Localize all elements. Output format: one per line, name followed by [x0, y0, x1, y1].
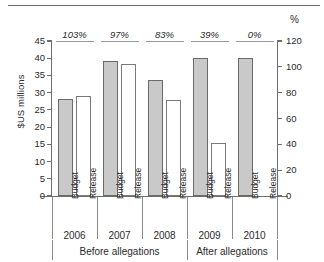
group-separator — [187, 197, 188, 239]
band-separator — [187, 240, 188, 260]
right-tick-mark — [278, 92, 282, 93]
year-label-2008: 2008 — [142, 230, 187, 241]
left-tick-label: 20 — [25, 122, 45, 132]
left-tick-label: 35 — [25, 70, 45, 80]
bar-label-release-2010: Release — [268, 168, 278, 199]
bar-label-release-2009: Release — [223, 168, 233, 199]
left-tick-mark — [47, 178, 51, 179]
left-tick-mark — [47, 195, 51, 196]
bar-label-release-2008: Release — [178, 168, 188, 199]
left-tick-mark — [47, 92, 51, 93]
group-separator — [52, 197, 53, 239]
group-separator — [232, 197, 233, 239]
bar-label-release-2007: Release — [133, 168, 143, 199]
group-label-before: Before allegations — [44, 246, 195, 257]
percent-annotation-2010: 0% — [233, 29, 277, 40]
year-label-2006: 2006 — [52, 230, 97, 241]
group-separator — [97, 197, 98, 239]
left-tick-label: 10 — [25, 157, 45, 167]
left-axis-title: $US millions — [15, 42, 26, 162]
bar-label-release-2006: Release — [88, 168, 98, 199]
percent-annotation-2007: 97% — [98, 29, 142, 40]
right-tick-label: 80 — [286, 88, 308, 98]
left-tick-label: 5 — [25, 174, 45, 184]
left-tick-label: 40 — [25, 53, 45, 63]
left-tick-label: 25 — [25, 105, 45, 115]
left-tick-mark — [47, 161, 51, 162]
group-label-after: After allegations — [179, 246, 285, 257]
right-tick-mark — [278, 66, 282, 67]
left-tick-mark — [47, 127, 51, 128]
right-tick-label: 0 — [286, 191, 308, 201]
right-tick-label: 20 — [286, 165, 308, 175]
right-tick-mark — [278, 40, 282, 41]
percent-annotation-2008: 83% — [143, 29, 187, 40]
band-separator — [277, 240, 278, 260]
right-tick-mark — [278, 118, 282, 119]
left-tick-label: 45 — [25, 36, 45, 46]
left-tick-label: 30 — [25, 88, 45, 98]
year-label-2007: 2007 — [97, 230, 142, 241]
bar-label-budget-2006: Budget — [70, 172, 80, 199]
percent-underline-2010 — [236, 41, 274, 42]
bar-label-budget-2007: Budget — [115, 172, 125, 199]
year-label-2009: 2009 — [187, 230, 232, 241]
right-axis-unit-label: % — [290, 14, 299, 25]
left-tick-mark — [47, 58, 51, 59]
percent-underline-2008 — [146, 41, 184, 42]
right-tick-mark — [278, 144, 282, 145]
left-tick-label: 15 — [25, 139, 45, 149]
right-tick-label: 40 — [286, 139, 308, 149]
left-tick-label: 0 — [25, 191, 45, 201]
right-tick-mark — [278, 195, 282, 196]
band-separator — [52, 240, 53, 260]
percent-underline-2009 — [191, 41, 229, 42]
left-tick-mark — [47, 40, 51, 41]
group-separator — [142, 197, 143, 239]
bar-label-budget-2008: Budget — [160, 172, 170, 199]
bar-label-budget-2010: Budget — [250, 172, 260, 199]
percent-underline-2007 — [101, 41, 139, 42]
right-tick-mark — [278, 170, 282, 171]
right-tick-label: 60 — [286, 114, 308, 124]
year-label-2010: 2010 — [232, 230, 277, 241]
top-divider — [8, 5, 320, 6]
chart-figure: % $US millions 454035302520151050 120100… — [0, 0, 324, 262]
percent-annotation-2009: 39% — [188, 29, 232, 40]
left-tick-mark — [47, 75, 51, 76]
right-tick-label: 100 — [286, 62, 308, 72]
right-tick-label: 120 — [286, 36, 308, 46]
group-separator — [277, 197, 278, 239]
bar-label-budget-2009: Budget — [205, 172, 215, 199]
left-tick-mark — [47, 144, 51, 145]
left-tick-mark — [47, 109, 51, 110]
percent-annotation-2006: 103% — [53, 29, 97, 40]
percent-underline-2006 — [56, 41, 94, 42]
